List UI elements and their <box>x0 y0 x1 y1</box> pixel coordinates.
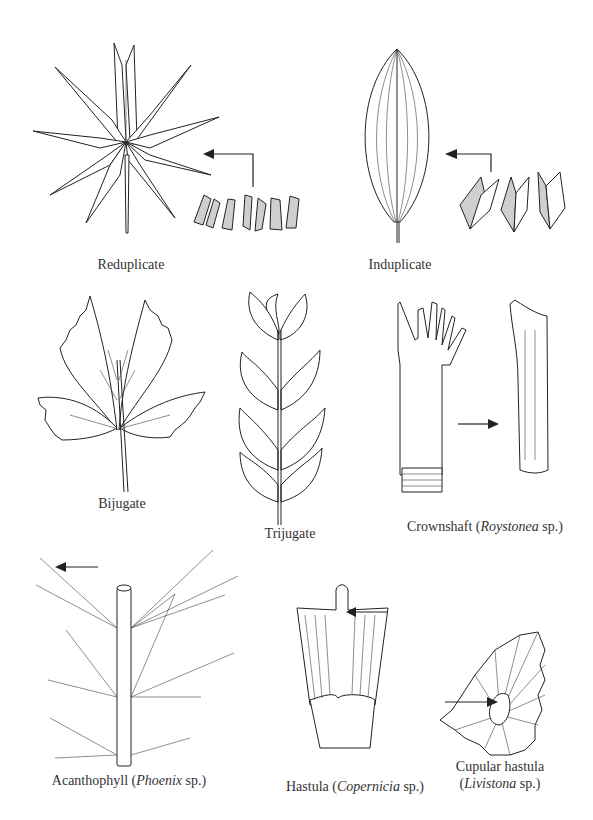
panel-crownshaft: Crownshaft (Roystonea sp.) <box>390 290 593 540</box>
crownshaft-icon <box>398 302 466 492</box>
induplicate-folds-icon <box>460 172 565 232</box>
arrow-icon <box>445 149 491 172</box>
panel-reduplicate: Reduplicate <box>0 0 300 280</box>
induplicate-leaf-illustration <box>300 0 593 280</box>
spiny-rachis-icon <box>36 550 238 766</box>
panel-acanthophyll: Acanthophyll (Phoenix sp.) <box>0 550 260 810</box>
bijugate-leaf-illustration <box>0 280 200 520</box>
trijugate-leaf-illustration <box>220 280 370 540</box>
acanthophyll-illustration <box>0 550 260 810</box>
caption-induplicate: Induplicate <box>360 256 440 273</box>
leaf-sheath-icon <box>510 300 548 473</box>
arrow-icon <box>203 149 253 187</box>
caption-trijugate: Trijugate <box>250 525 330 542</box>
caption-cupular-hastula: Cupular hastula (Livistona sp.) <box>420 758 580 792</box>
star-leaf-icon <box>33 43 219 233</box>
hastula-icon <box>297 585 388 748</box>
crownshaft-illustration <box>390 290 593 540</box>
trijugate-leaf-icon <box>239 292 325 525</box>
panel-trijugate: Trijugate <box>220 280 370 540</box>
caption-hastula: Hastula (Copernicia sp.) <box>280 778 430 795</box>
panel-induplicate: Induplicate <box>300 0 593 280</box>
panel-bijugate: Bijugate <box>0 280 200 520</box>
hastula-illustration <box>280 570 430 810</box>
caption-acanthophyll: Acanthophyll (Phoenix sp.) <box>44 772 214 789</box>
arrow-icon <box>458 419 499 429</box>
lanceolate-leaf-icon <box>365 49 429 243</box>
caption-reduplicate: Reduplicate <box>86 256 176 273</box>
reduplicate-leaf-illustration <box>0 0 300 280</box>
reduplicate-folds-icon <box>194 195 299 231</box>
panel-hastula: Hastula (Copernicia sp.) <box>280 570 430 810</box>
caption-crownshaft: Crownshaft (Roystonea sp.) <box>390 518 580 535</box>
arrow-icon <box>55 562 98 572</box>
bijugate-leaf-icon <box>38 296 205 492</box>
caption-bijugate: Bijugate <box>82 495 162 512</box>
fan-leaf-icon <box>440 632 545 755</box>
panel-cupular-hastula: Cupular hastula (Livistona sp.) <box>420 620 593 820</box>
